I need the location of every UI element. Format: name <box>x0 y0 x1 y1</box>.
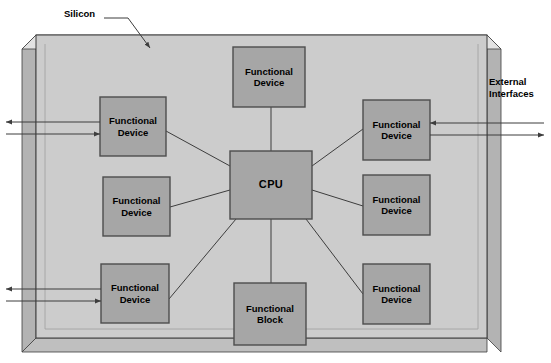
silicon-annotation-label: Silicon <box>64 8 95 20</box>
block-fb-bottom[interactable] <box>234 283 306 345</box>
silicon-chip-diagram <box>0 0 551 363</box>
block-fd-right-mid[interactable] <box>363 175 430 235</box>
diagram-canvas: Functional DeviceFunctional DeviceFuncti… <box>0 0 551 363</box>
block-fd-right-bottom[interactable] <box>363 264 430 324</box>
silicon-left-face <box>22 35 36 352</box>
block-fd-right-top[interactable] <box>363 100 430 160</box>
block-fd-left-bottom[interactable] <box>101 264 169 323</box>
block-fd-top[interactable] <box>233 47 305 107</box>
block-cpu[interactable] <box>230 151 312 219</box>
block-fd-left-top[interactable] <box>100 97 166 156</box>
external-interfaces-annotation-label: External Interfaces <box>489 76 534 100</box>
block-fd-left-mid[interactable] <box>103 177 170 236</box>
